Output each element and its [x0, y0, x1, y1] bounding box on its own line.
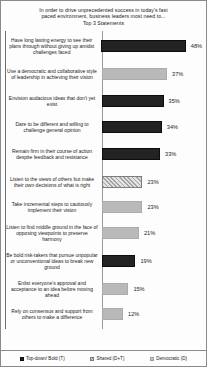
bar-t — [102, 95, 164, 107]
bar-track: 35% — [102, 88, 202, 114]
bar-category-label: Listen to the views of others but make t… — [6, 176, 102, 188]
bar-track: 12% — [102, 302, 202, 326]
bar-d — [102, 201, 142, 213]
legend-item[interactable]: Shared (D+T) — [90, 356, 124, 361]
bar-value-label: 19% — [140, 258, 151, 264]
bar-t — [101, 40, 185, 52]
bar-value-label: 48% — [191, 43, 202, 49]
legend-item[interactable]: Top-down/ Bold (T) — [20, 356, 65, 361]
bar-row: Envision audacious ideas that don't yet … — [6, 88, 202, 114]
legend-item[interactable]: Democratic (D) — [150, 356, 187, 361]
bar-value-label: 37% — [172, 71, 183, 77]
bar-track: 33% — [102, 140, 202, 168]
bar-rows: Have long lasting energy to see their pl… — [6, 31, 202, 326]
bar-t — [102, 121, 162, 133]
bar-category-label: Remain firm in their course of action de… — [6, 148, 102, 160]
bar-d — [102, 227, 139, 239]
bar-row: Take incremental steps to cautiously imp… — [6, 195, 202, 219]
legend-label: Top-down/ Bold (T) — [26, 356, 65, 361]
bar-d — [102, 283, 128, 295]
bar-category-label: Rely on consensus and support from other… — [6, 308, 102, 320]
bar-category-label: Take incremental steps to cautiously imp… — [6, 201, 102, 213]
bar-value-label: 34% — [167, 124, 178, 130]
bar-category-label: Dare to be different and willing to chal… — [6, 121, 102, 133]
bar-track: 23% — [102, 195, 202, 219]
bar-value-label: 35% — [169, 98, 180, 104]
bar-category-label: Enlist everyone's approval and acceptanc… — [6, 280, 102, 298]
bar-row: Listen to find middle ground in the face… — [6, 219, 202, 247]
chart-title: In order to drive unprecedented success … — [1, 1, 206, 28]
legend-label: Democratic (D) — [156, 356, 187, 361]
bar-row: Remain firm in their course of action de… — [6, 140, 202, 168]
bar-d — [102, 308, 123, 320]
chart-container: In order to drive unprecedented success … — [0, 0, 207, 367]
bar-value-label: 23% — [147, 204, 158, 210]
bar-t — [102, 148, 160, 160]
bar-track: 48% — [101, 31, 202, 60]
bar-d — [102, 68, 167, 80]
bar-value-label: 15% — [133, 286, 144, 292]
bar-row: Have long lasting energy to see their pl… — [6, 31, 202, 60]
bar-row: Rely on consensus and support from other… — [6, 302, 202, 326]
bar-track: 19% — [102, 247, 202, 275]
chart-plot-area: Have long lasting energy to see their pl… — [5, 31, 202, 329]
bar-value-label: 23% — [147, 179, 158, 185]
bar-category-label: Have long lasting energy to see their pl… — [6, 37, 101, 55]
bar-row: Listen to the views of others but make t… — [6, 168, 202, 195]
bar-value-label: 33% — [165, 151, 176, 157]
bar-row: Be bold risk-takers that pursue unpopula… — [6, 247, 202, 275]
chart-title-line-2: paced environment, business leaders most… — [15, 13, 192, 19]
legend-swatch-icon — [150, 357, 154, 361]
legend-swatch-icon — [20, 357, 24, 361]
bar-dt — [102, 176, 142, 188]
bar-category-label: Listen to find middle ground in the face… — [6, 224, 102, 242]
bar-row: Dare to be different and willing to chal… — [6, 114, 202, 140]
bar-row: Enlist everyone's approval and acceptanc… — [6, 275, 202, 302]
bar-track: 21% — [102, 219, 202, 247]
bar-category-label: Be bold risk-takers that pursue unpopula… — [6, 252, 102, 270]
bar-row: Use a democratic and collaborative style… — [6, 60, 202, 88]
bar-value-label: 12% — [128, 311, 139, 317]
bar-track: 23% — [102, 168, 202, 195]
legend-swatch-icon — [90, 357, 94, 361]
chart-legend: Top-down/ Bold (T)Shared (D+T)Democratic… — [1, 350, 206, 366]
bar-value-label: 21% — [144, 230, 155, 236]
bar-track: 34% — [102, 114, 202, 140]
bar-t — [102, 255, 135, 267]
legend-label: Shared (D+T) — [96, 356, 124, 361]
bar-category-label: Use a democratic and collaborative style… — [6, 68, 102, 80]
chart-title-line-3: Top 3 Statements — [15, 20, 192, 26]
bar-category-label: Envision audacious ideas that don't yet … — [6, 95, 102, 107]
bar-track: 37% — [102, 60, 202, 88]
bar-track: 15% — [102, 275, 202, 302]
